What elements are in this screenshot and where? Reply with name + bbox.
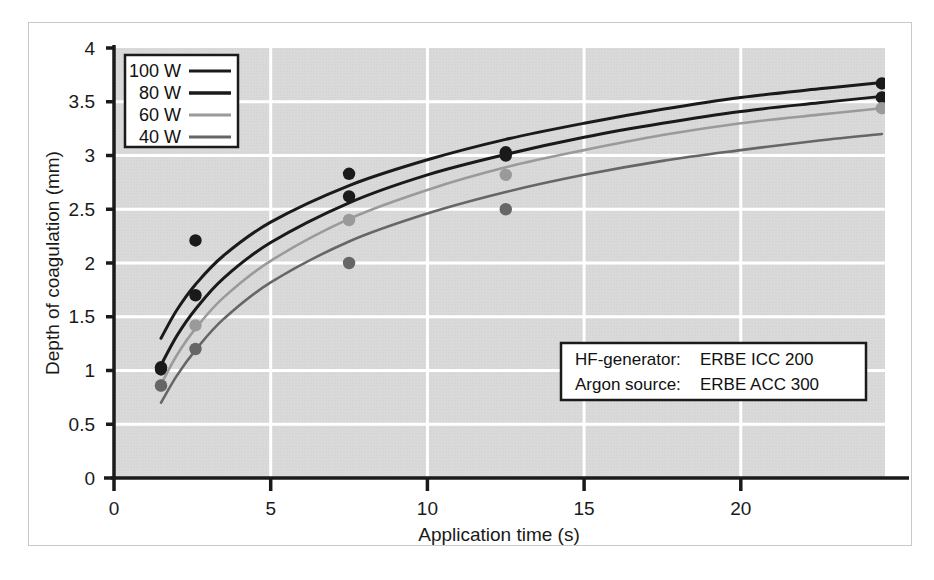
coagulation-depth-chart: 0 0.5 1 1.5 2 2.5 3 3.5 4 0 5 10 15 20 A… xyxy=(29,23,911,545)
x-tick-20: 20 xyxy=(730,498,751,519)
x-axis-tick-labels: 0 5 10 15 20 xyxy=(109,498,752,519)
legend-label-100w: 100 W xyxy=(129,61,181,81)
note-box: HF-generator: ERBE ICC 200 Argon source:… xyxy=(561,343,866,400)
data-point-40w-2 xyxy=(343,257,355,269)
data-point-40w-3 xyxy=(500,203,512,215)
data-point-60w-2 xyxy=(343,214,355,226)
data-point-100w-2 xyxy=(343,168,355,180)
y-tick-1: 1 xyxy=(84,360,95,381)
legend-label-80w: 80 W xyxy=(139,83,181,103)
data-point-40w-1 xyxy=(189,343,201,355)
data-point-60w-1 xyxy=(189,319,201,331)
y-tick-4: 4 xyxy=(84,38,95,59)
data-point-80w-2 xyxy=(343,190,355,202)
legend-label-40w: 40 W xyxy=(139,127,181,147)
x-axis-ticks xyxy=(114,478,741,491)
y-tick-0.5: 0.5 xyxy=(69,414,95,435)
x-axis-title: Application time (s) xyxy=(418,524,580,545)
y-tick-3.5: 3.5 xyxy=(69,91,95,112)
legend-label-60w: 60 W xyxy=(139,105,181,125)
data-point-40w-0 xyxy=(155,379,167,391)
y-tick-2.5: 2.5 xyxy=(69,199,95,220)
note-argon-source-value: ERBE ACC 300 xyxy=(700,375,819,394)
y-tick-0: 0 xyxy=(84,468,95,489)
y-axis-title: Depth of coagulation (mm) xyxy=(42,151,63,375)
data-point-60w-3 xyxy=(500,169,512,181)
figure-frame: 0 0.5 1 1.5 2 2.5 3 3.5 4 0 5 10 15 20 A… xyxy=(28,22,912,546)
x-tick-10: 10 xyxy=(417,498,438,519)
figure-container: 0 0.5 1 1.5 2 2.5 3 3.5 4 0 5 10 15 20 A… xyxy=(0,0,934,580)
y-tick-2: 2 xyxy=(84,253,95,274)
note-hf-generator-label: HF-generator: xyxy=(575,350,681,369)
data-point-60w-4 xyxy=(876,102,888,114)
y-axis-tick-labels: 0 0.5 1 1.5 2 2.5 3 3.5 4 xyxy=(69,38,96,489)
x-tick-15: 15 xyxy=(574,498,595,519)
data-point-80w-4 xyxy=(876,91,888,103)
legend: 100 W 80 W 60 W 40 W xyxy=(125,55,238,147)
data-point-80w-1 xyxy=(189,289,201,301)
x-tick-5: 5 xyxy=(265,498,276,519)
data-point-80w-3 xyxy=(500,149,512,161)
y-tick-1.5: 1.5 xyxy=(69,306,95,327)
x-tick-0: 0 xyxy=(109,498,120,519)
data-point-100w-1 xyxy=(189,234,201,246)
note-argon-source-label: Argon source: xyxy=(575,375,681,394)
y-tick-3: 3 xyxy=(84,145,95,166)
data-point-100w-4 xyxy=(876,77,888,89)
note-hf-generator-value: ERBE ICC 200 xyxy=(700,350,813,369)
